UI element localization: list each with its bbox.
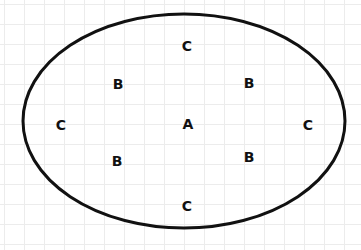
label-c: C: [56, 118, 66, 132]
label-b: B: [244, 76, 255, 90]
label-c: C: [182, 39, 192, 53]
label-b: B: [112, 154, 123, 168]
label-b: B: [113, 77, 124, 91]
label-c: C: [182, 199, 192, 213]
diagram-canvas: CBBCACBBC: [0, 0, 361, 250]
label-b: B: [244, 150, 255, 164]
label-a: A: [183, 117, 194, 131]
label-c: C: [303, 118, 313, 132]
